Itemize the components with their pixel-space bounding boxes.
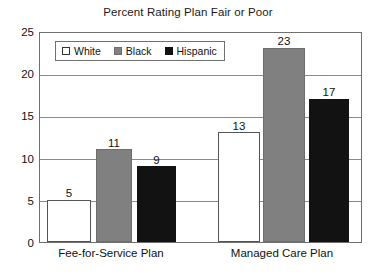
legend-swatch-hispanic-icon (165, 47, 173, 55)
bar-managed-care-black[interactable] (263, 48, 305, 242)
chart-screenshot: Percent Rating Plan Fair or Poor 25 20 1… (0, 0, 376, 274)
legend-item-hispanic[interactable]: Hispanic (165, 45, 217, 57)
legend-item-white[interactable]: White (62, 45, 101, 57)
bar-fee-for-service-hispanic[interactable] (137, 166, 176, 242)
y-tick-15: 15 (4, 110, 34, 122)
bar-fee-for-service-black[interactable] (96, 149, 132, 242)
y-tick-20: 20 (4, 68, 34, 80)
y-axis: 25 20 15 10 5 0 (0, 32, 34, 243)
legend-label-hispanic: Hispanic (177, 45, 217, 57)
bar-value-managed-care-black: 23 (263, 35, 305, 47)
x-axis-label-managed-care: Managed Care Plan (217, 247, 347, 259)
legend-swatch-white-icon (62, 47, 70, 55)
legend-swatch-black-icon (114, 47, 122, 55)
legend-label-white: White (74, 45, 101, 57)
bar-fee-for-service-white[interactable] (47, 200, 91, 242)
bar-value-fee-for-service-black: 11 (96, 137, 132, 149)
plot-area: 5 11 9 13 23 17 (39, 32, 362, 243)
y-tick-10: 10 (4, 153, 34, 165)
legend-item-black[interactable]: Black (114, 45, 152, 57)
legend-label-black: Black (126, 45, 152, 57)
y-tick-25: 25 (4, 26, 34, 38)
legend[interactable]: White Black Hispanic (55, 41, 225, 61)
x-axis-label-fee-for-service: Fee-for-Service Plan (46, 247, 176, 259)
y-tick-0: 0 (4, 237, 34, 249)
bar-value-fee-for-service-white: 5 (47, 187, 91, 199)
y-tick-5: 5 (4, 195, 34, 207)
bar-managed-care-hispanic[interactable] (309, 99, 349, 243)
bar-value-managed-care-hispanic: 17 (309, 86, 349, 98)
bar-value-fee-for-service-hispanic: 9 (137, 154, 176, 166)
bar-value-managed-care-white: 13 (218, 120, 260, 132)
gridline-20 (40, 75, 361, 76)
bar-managed-care-white[interactable] (218, 132, 260, 242)
chart-title: Percent Rating Plan Fair or Poor (0, 6, 376, 18)
